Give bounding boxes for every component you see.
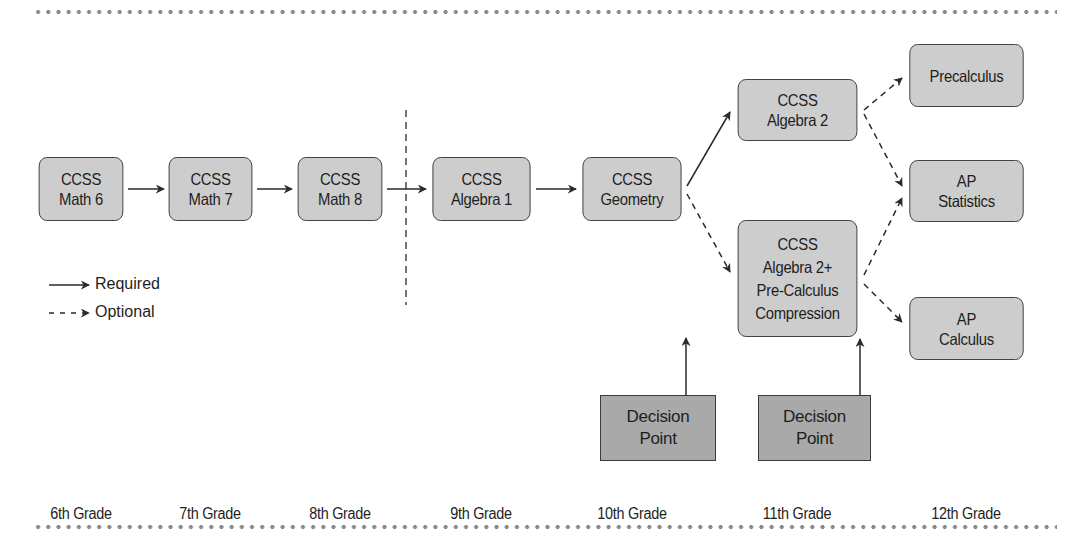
grade-label-9: 9th Grade <box>450 505 512 523</box>
node-math8: CCSS Math 8 <box>298 157 383 221</box>
node-line: Algebra 2+ <box>763 256 833 279</box>
decision-line: Decision <box>783 406 846 428</box>
node-line: Math 6 <box>59 189 103 209</box>
node-apcalculus: AP Calculus <box>909 297 1023 360</box>
node-line: Pre-Calculus <box>757 279 839 302</box>
node-algebra1: CCSS Algebra 1 <box>432 157 530 221</box>
node-line: CCSS <box>61 169 101 189</box>
decision-line: Decision <box>627 406 690 428</box>
grade-label-11: 11th Grade <box>763 505 831 523</box>
node-apstatistics: AP Statistics <box>909 160 1023 222</box>
node-line: Algebra 2 <box>767 110 828 130</box>
node-line: Math 8 <box>318 189 362 209</box>
grade-label-12: 12th Grade <box>931 505 1000 523</box>
edge-algebra2plus-apstatistics <box>864 198 902 275</box>
node-precalculus: Precalculus <box>909 44 1023 107</box>
legend-optional-label: Optional <box>95 303 155 321</box>
node-line: CCSS <box>612 169 652 189</box>
node-line: AP <box>957 309 976 329</box>
node-line: AP <box>957 171 976 191</box>
grade-label-10: 10th Grade <box>597 505 666 523</box>
node-line: CCSS <box>320 169 360 189</box>
legend-optional: Optional <box>95 303 155 321</box>
node-line: CCSS <box>777 90 817 110</box>
node-geometry: CCSS Geometry <box>583 157 682 221</box>
node-line: Statistics <box>938 191 995 211</box>
decision-point-11th: Decision Point <box>758 395 871 461</box>
edge-geometry-algebra2plus <box>687 194 730 272</box>
node-math7: CCSS Math 7 <box>169 157 253 221</box>
node-line: Precalculus <box>930 66 1004 86</box>
node-line: CCSS <box>461 169 501 189</box>
grade-label-6: 6th Grade <box>50 505 112 523</box>
edge-algebra2plus-apcalculus <box>864 284 902 322</box>
node-math6: CCSS Math 6 <box>39 157 124 221</box>
decision-point-10th: Decision Point <box>600 395 716 461</box>
legend-required: Required <box>95 275 160 293</box>
node-line: Algebra 1 <box>451 189 512 209</box>
grade-label-7: 7th Grade <box>179 505 241 523</box>
decision-line: Point <box>639 428 676 450</box>
node-line: Calculus <box>939 329 994 349</box>
node-line: CCSS <box>190 169 230 189</box>
edge-algebra2-precalculus <box>864 78 902 110</box>
node-line: CCSS <box>777 233 817 256</box>
grade-label-8: 8th Grade <box>309 505 371 523</box>
edge-geometry-algebra2 <box>687 112 730 186</box>
decision-line: Point <box>796 428 833 450</box>
node-line: Compression <box>755 302 840 325</box>
node-algebra2: CCSS Algebra 2 <box>738 79 858 141</box>
node-line: Geometry <box>600 189 663 209</box>
legend-required-label: Required <box>95 275 160 293</box>
node-line: Math 7 <box>189 189 233 209</box>
node-algebra2plus: CCSS Algebra 2+ Pre-Calculus Compression <box>738 220 858 337</box>
edge-algebra2-apstatistics <box>864 114 902 186</box>
